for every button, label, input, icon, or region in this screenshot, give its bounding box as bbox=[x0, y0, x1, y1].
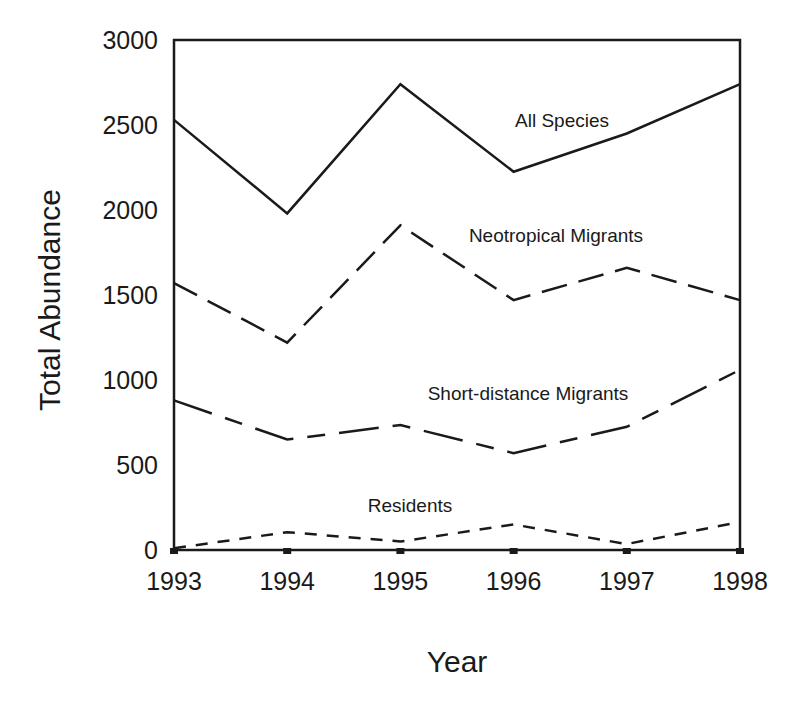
x-tick-label: 1995 bbox=[373, 567, 429, 595]
line-chart: 050010001500200025003000 199319941995199… bbox=[0, 0, 793, 703]
x-axis-ticks: 199319941995199619971998 bbox=[146, 548, 768, 595]
x-axis-label: Year bbox=[427, 645, 488, 678]
plot-frame bbox=[174, 40, 740, 550]
label-neotropical-migrants: Neotropical Migrants bbox=[469, 225, 643, 246]
x-tick-mark bbox=[510, 548, 518, 554]
series-line-all-species bbox=[174, 84, 740, 213]
x-tick-mark bbox=[396, 548, 404, 554]
x-tick-label: 1993 bbox=[146, 567, 202, 595]
x-tick-label: 1998 bbox=[712, 567, 768, 595]
x-tick-mark bbox=[736, 548, 744, 554]
label-all-species: All Species bbox=[515, 110, 609, 131]
y-tick-label: 2500 bbox=[102, 111, 158, 139]
series-lines bbox=[174, 84, 740, 548]
series-line-residents bbox=[174, 522, 740, 548]
y-tick-label: 500 bbox=[116, 451, 158, 479]
label-residents: Residents bbox=[368, 495, 453, 516]
y-tick-label: 3000 bbox=[102, 26, 158, 54]
y-axis-label: Total Abundance bbox=[33, 189, 66, 411]
y-tick-label: 1500 bbox=[102, 281, 158, 309]
label-short-distance-migrants: Short-distance Migrants bbox=[428, 383, 629, 404]
x-tick-label: 1994 bbox=[259, 567, 315, 595]
y-tick-label: 2000 bbox=[102, 196, 158, 224]
x-tick-mark bbox=[283, 548, 291, 554]
y-tick-label: 0 bbox=[144, 536, 158, 564]
y-tick-label: 1000 bbox=[102, 366, 158, 394]
y-axis-ticks: 050010001500200025003000 bbox=[102, 26, 158, 564]
series-line-neotropical-migrants bbox=[174, 225, 740, 342]
x-tick-label: 1997 bbox=[599, 567, 655, 595]
x-tick-label: 1996 bbox=[486, 567, 542, 595]
x-tick-mark bbox=[623, 548, 631, 554]
